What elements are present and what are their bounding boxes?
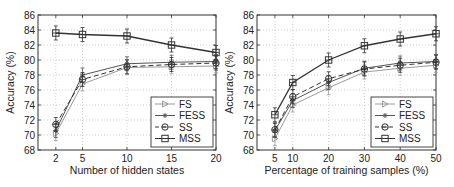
- legend-label-fess: FESS: [399, 110, 425, 121]
- chart-hidden-states: 6870727476788082848625101520Number of hi…: [4, 10, 222, 177]
- x-tick-label: 50: [430, 153, 442, 164]
- y-tick-label: 70: [243, 130, 255, 141]
- x-tick-label: 10: [287, 153, 299, 164]
- y-tick-label: 84: [243, 25, 255, 36]
- x-axis-label: Number of hidden states: [70, 164, 184, 176]
- x-tick-label: 10: [121, 153, 133, 164]
- y-tick-label: 84: [24, 25, 36, 36]
- x-tick-label: 5: [272, 153, 278, 164]
- y-tick-label: 78: [243, 70, 255, 81]
- legend-label-fs: FS: [179, 99, 192, 110]
- y-tick-label: 76: [24, 85, 36, 96]
- legend-label-mss: MSS: [399, 133, 421, 144]
- y-tick-label: 86: [24, 10, 36, 21]
- y-tick-label: 76: [243, 85, 255, 96]
- y-tick-label: 74: [243, 100, 255, 111]
- legend-label-ss: SS: [399, 122, 413, 133]
- x-axis-label: Percentage of training samples (%): [265, 164, 429, 176]
- y-tick-label: 82: [243, 40, 255, 51]
- y-tick-label: 72: [24, 115, 36, 126]
- legend-label-fess: FESS: [179, 110, 205, 121]
- legend: FSFESSSSMSS: [151, 97, 213, 147]
- x-tick-label: 20: [210, 153, 222, 164]
- y-tick-label: 86: [243, 10, 255, 21]
- legend-label-ss: SS: [179, 122, 193, 133]
- x-tick-label: 40: [395, 153, 407, 164]
- legend: FSFESSSSMSS: [371, 97, 433, 147]
- x-tick-label: 2: [53, 153, 59, 164]
- y-tick-label: 74: [24, 100, 36, 111]
- series-mss: [53, 26, 220, 60]
- y-axis-label: Accuracy (%): [223, 51, 235, 113]
- y-tick-label: 70: [24, 130, 36, 141]
- chart-training-samples: 6870727476788082848651020304050Percentag…: [223, 10, 442, 177]
- y-tick-label: 78: [24, 70, 36, 81]
- figure: 6870727476788082848625101520Number of hi…: [0, 0, 454, 187]
- y-tick-label: 80: [24, 55, 36, 66]
- legend-label-fs: FS: [399, 99, 412, 110]
- x-tick-label: 20: [323, 153, 335, 164]
- x-tick-label: 15: [166, 153, 178, 164]
- legend-label-mss: MSS: [179, 133, 201, 144]
- y-tick-label: 72: [243, 115, 255, 126]
- y-tick-label: 82: [24, 40, 36, 51]
- y-tick-label: 80: [243, 55, 255, 66]
- y-tick-label: 68: [24, 145, 36, 156]
- y-tick-label: 68: [243, 145, 255, 156]
- y-axis-label: Accuracy (%): [4, 51, 16, 113]
- x-tick-label: 5: [80, 153, 86, 164]
- x-tick-label: 30: [359, 153, 371, 164]
